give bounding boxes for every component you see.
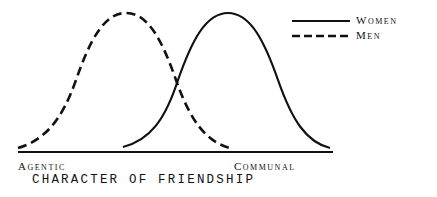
x-axis-right-label: Communal [234,160,296,172]
legend-women-label: Women [356,14,397,26]
x-axis-title: CHARACTER OF FRIENDSHIP [32,173,255,187]
x-axis-left-label: Agentic [18,160,66,172]
legend-men-label: Men [356,29,381,41]
